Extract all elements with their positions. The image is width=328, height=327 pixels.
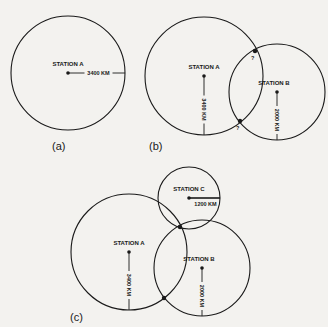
panel-label-b: (b) <box>149 140 162 152</box>
intersection-point <box>162 296 166 300</box>
intersection-point <box>253 49 257 53</box>
station-a: STATION A3400 KM <box>11 16 125 130</box>
distance-label: 3400 KM <box>201 98 207 121</box>
station-label: STATION B <box>258 80 290 86</box>
station-label: STATION A <box>188 64 220 70</box>
intersection-point <box>178 225 182 229</box>
question-mark: ? <box>236 125 240 131</box>
triangulation-figure: STATION A3400 KM(a)STATION A3400 KMSTATI… <box>0 0 328 327</box>
station-label: STATION A <box>113 240 145 246</box>
panel-c: STATION A3400 KMSTATION B2000 KMSTATION … <box>70 167 250 323</box>
distance-label: 3400 KM <box>126 274 132 297</box>
station-b: STATION B2000 KM <box>154 220 250 316</box>
station-label: STATION C <box>173 186 205 192</box>
distance-label: 2000 KM <box>199 285 205 308</box>
distance-label: 2000 KM <box>274 109 280 132</box>
panel-b: STATION A3400 KMSTATION B2000 KM??(b) <box>145 17 325 152</box>
station-c: STATION C1200 KM <box>158 167 220 229</box>
panel-label-a: (a) <box>52 140 65 152</box>
station-a: STATION A3400 KM <box>71 194 187 310</box>
distance-label: 1200 KM <box>194 201 217 207</box>
question-mark: ? <box>251 55 255 61</box>
panel-a: STATION A3400 KM(a) <box>11 16 125 152</box>
station-label: STATION B <box>183 256 215 262</box>
station-a: STATION A3400 KM <box>145 17 263 135</box>
station-b: STATION B2000 KM <box>229 44 325 140</box>
panel-label-c: (c) <box>70 311 83 323</box>
figure-svg: STATION A3400 KM(a)STATION A3400 KMSTATI… <box>0 0 328 327</box>
distance-label: 3400 KM <box>87 70 110 76</box>
station-label: STATION A <box>52 61 84 67</box>
intersection-point <box>238 119 242 123</box>
